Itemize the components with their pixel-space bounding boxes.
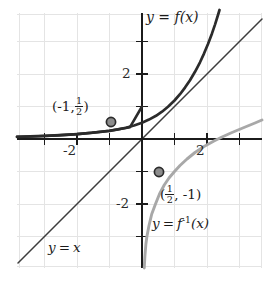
point-label-on-f: (-1,12) (52, 96, 89, 117)
identity-label-equals: = (59, 239, 70, 255)
function-label: y = f(x) (146, 10, 199, 24)
point-inv-denominator: 2 (165, 194, 174, 205)
coordinate-plane (0, 0, 278, 284)
point-inv-close: ) (196, 186, 201, 202)
point-inv-y: , -1 (174, 186, 196, 202)
graph-figure: y = f(x) (-1,12) (12, -1) y=f-1(x) y=x -… (0, 0, 278, 284)
point-inv-fraction: 12 (165, 184, 174, 205)
point-label-on-f-inverse: (12, -1) (160, 184, 201, 205)
inverse-label-arg: (x) (191, 215, 209, 231)
function-label-text: y = f(x) (146, 9, 199, 25)
y-tick-label-neg2: -2 (116, 197, 129, 211)
marker-point-on-f (106, 117, 115, 126)
identity-line-label: y=x (48, 241, 81, 255)
point-f-denominator: 2 (75, 106, 84, 117)
y-tick-label-pos2: 2 (122, 67, 131, 81)
point-f-x: -1, (57, 98, 74, 114)
inverse-label-equals: = (163, 215, 174, 231)
x-tick-label-pos2: 2 (196, 144, 205, 158)
inverse-label-exponent: -1 (182, 214, 191, 225)
marker-point-on-f-inverse (154, 167, 163, 176)
point-f-numerator: 1 (75, 96, 84, 106)
identity-label-x: x (73, 239, 81, 255)
point-inv-numerator: 1 (165, 184, 174, 194)
inverse-label-y: y (152, 215, 160, 231)
point-f-close: ) (84, 98, 89, 114)
inverse-function-label: y=f-1(x) (152, 215, 209, 230)
identity-label-y: y (48, 239, 56, 255)
x-tick-label-neg2: -2 (63, 144, 76, 158)
point-f-fraction: 12 (75, 96, 84, 117)
